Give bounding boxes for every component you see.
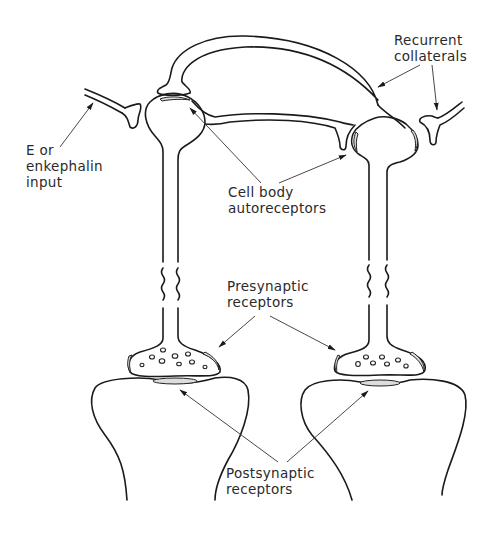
postsynaptic-cell-right (301, 379, 466, 500)
vesicles-right (356, 355, 408, 368)
label-line: autoreceptors (228, 200, 326, 216)
label-line: Presynaptic (227, 278, 309, 294)
label-line: receptors (227, 294, 309, 310)
label-line: Recurrent (394, 32, 467, 48)
label-line: receptors (226, 481, 315, 497)
recurrent-collateral-right (420, 102, 464, 145)
label-line: collaterals (394, 48, 467, 64)
label-presynaptic-receptors: Presynaptic receptors (227, 278, 309, 310)
label-input: E or enkephalin input (26, 142, 103, 190)
input-axon (85, 89, 141, 128)
label-line: enkephalin (26, 158, 103, 174)
neuron-right (335, 117, 426, 376)
label-line: input (26, 174, 103, 190)
label-cell-body-autoreceptors: Cell body autoreceptors (228, 184, 326, 216)
neuron-left (128, 93, 221, 376)
collateral-lower (192, 101, 355, 150)
label-line: Cell body (228, 184, 326, 200)
label-line: E or (26, 142, 103, 158)
neuron-diagram (0, 0, 502, 545)
label-postsynaptic-receptors: Postsynaptic receptors (226, 465, 315, 497)
label-recurrent-collaterals: Recurrent collaterals (394, 32, 467, 64)
label-line: Postsynaptic (226, 465, 315, 481)
